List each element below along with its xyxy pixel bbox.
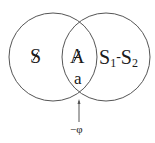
venn-diagram: S A a S1-S2 −φ bbox=[0, 0, 155, 143]
arrow-head-icon bbox=[78, 99, 81, 104]
right-region-label: S1-S2 bbox=[99, 47, 138, 69]
s2-subscript: 2 bbox=[132, 56, 138, 70]
s2-letter: S bbox=[121, 46, 132, 68]
intersection-bottom-label: a bbox=[74, 70, 82, 87]
intersection-top-label: A bbox=[70, 46, 84, 66]
struck-a: A bbox=[70, 46, 84, 66]
s1-letter: S bbox=[99, 46, 110, 68]
struck-s: S bbox=[30, 46, 41, 66]
arrow-label: −φ bbox=[70, 124, 83, 135]
left-region-label: S bbox=[30, 46, 41, 66]
